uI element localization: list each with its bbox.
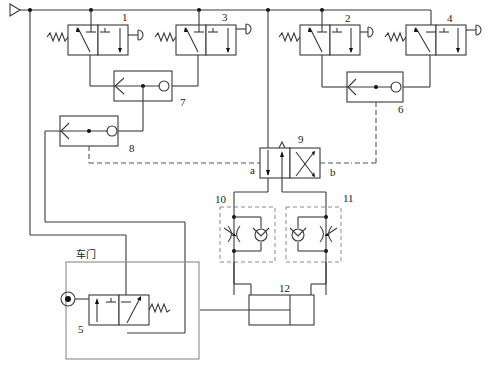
- label-valve-1: 1: [122, 12, 128, 23]
- shuttle-valve-7: [114, 71, 172, 131]
- label-valve-8: 8: [129, 143, 135, 154]
- label-valve-11: 11: [343, 193, 354, 204]
- cylinder-12: [200, 262, 326, 325]
- air-source-icon: [10, 4, 20, 16]
- label-valve-4: 4: [447, 13, 453, 24]
- shuttle-valve-6: [347, 72, 403, 163]
- valve-5: [61, 292, 170, 325]
- label-valve-10: 10: [215, 194, 226, 205]
- pneumatic-diagram: 1 3 2 4 7 6 8 9 a b 10 11 12 车门 5: [0, 0, 493, 370]
- label-door: 车门: [76, 250, 96, 260]
- label-port-a: a: [250, 165, 255, 176]
- shuttle-valve-8: [45, 116, 260, 333]
- circuit-drawing: [0, 0, 493, 370]
- label-valve-7: 7: [180, 97, 186, 108]
- flow-control-valve-10: [220, 192, 275, 295]
- label-cylinder-12: 12: [279, 283, 290, 294]
- label-valve-3: 3: [222, 12, 228, 23]
- label-valve-6: 6: [398, 104, 404, 115]
- label-valve-5: 5: [78, 324, 84, 335]
- label-valve-9: 9: [298, 134, 304, 145]
- flow-control-valve-11: [286, 192, 341, 295]
- label-valve-2: 2: [345, 13, 351, 24]
- label-port-b: b: [330, 167, 336, 178]
